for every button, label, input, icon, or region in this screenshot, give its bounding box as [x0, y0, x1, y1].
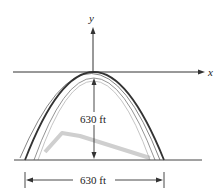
y-axis-label: y [88, 12, 94, 24]
x-axis-label: x [207, 66, 213, 78]
arch-shadow [45, 133, 150, 158]
width-arrow-left-icon [26, 178, 33, 183]
x-axis-arrow-icon [198, 70, 205, 75]
width-label: 630 ft [80, 174, 106, 186]
width-arrow-right-icon [156, 178, 163, 183]
arch-diagram: x y 630 ft 630 ft [0, 0, 221, 194]
height-arrow-down-icon [92, 152, 97, 159]
height-label: 630 ft [80, 113, 106, 125]
height-arrow-up-icon [92, 78, 97, 85]
y-axis-arrow-icon [91, 27, 96, 34]
